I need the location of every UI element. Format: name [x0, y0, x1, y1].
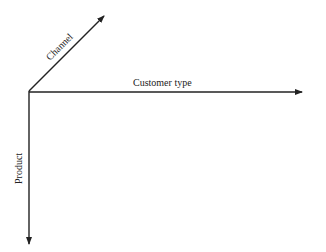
product-label: Product — [13, 153, 24, 184]
three-axis-diagram: Channel Customer type Product — [0, 0, 326, 252]
customer-type-axis: Customer type — [29, 77, 302, 92]
diagram-canvas: Channel Customer type Product — [0, 0, 326, 252]
channel-arrow — [29, 16, 104, 91]
product-axis: Product — [13, 91, 29, 244]
channel-axis: Channel — [29, 16, 104, 91]
customer-type-label: Customer type — [133, 77, 192, 88]
channel-label: Channel — [44, 31, 75, 62]
